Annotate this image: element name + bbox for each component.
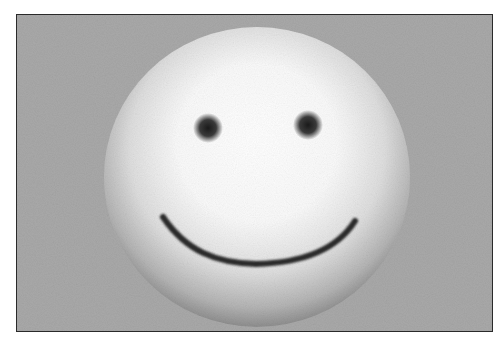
left-eye — [193, 113, 223, 143]
image-frame — [16, 14, 493, 332]
smiley-sphere-illustration — [17, 15, 492, 331]
right-eye — [293, 110, 323, 140]
sphere-face — [104, 27, 410, 327]
